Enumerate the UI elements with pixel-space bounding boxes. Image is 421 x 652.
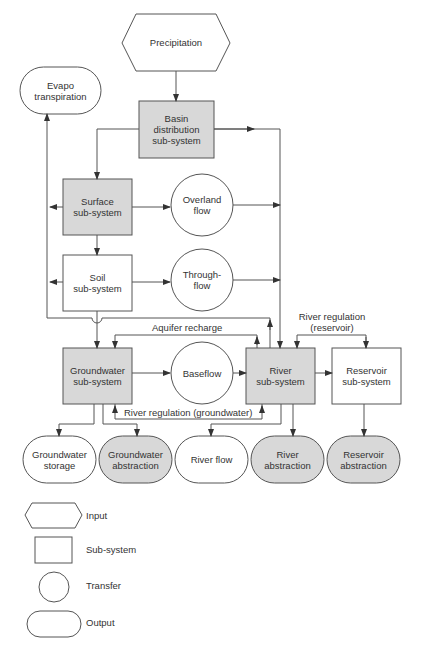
legend-subsystem-label: Sub-system bbox=[86, 544, 136, 555]
legend-output-oval bbox=[27, 611, 81, 637]
legend-input-label: Input bbox=[86, 510, 107, 521]
reservoir-label: Reservoir sub-system bbox=[332, 348, 401, 404]
legend-transfer-circle bbox=[39, 572, 69, 602]
precipitation-label: Precipitation bbox=[122, 14, 230, 71]
baseflow-label: Baseflow bbox=[171, 342, 233, 404]
throughflow-label: Through- flow bbox=[171, 249, 233, 311]
river-regulation-reservoir-label: River regulation (reservoir) bbox=[297, 311, 367, 333]
overland-label: Overland flow bbox=[171, 174, 233, 236]
legend-output-label: Output bbox=[86, 617, 115, 628]
river-flow-label: River flow bbox=[175, 436, 248, 483]
gw-storage-label: Groundwater storage bbox=[23, 436, 96, 483]
aquifer-recharge-label: Aquifer recharge bbox=[152, 322, 222, 333]
edge-river-reg-reservoir bbox=[297, 335, 366, 348]
surface-label: Surface sub-system bbox=[63, 179, 132, 235]
gw-abstraction-label: Groundwater abstraction bbox=[99, 436, 172, 483]
legend-transfer-label: Transfer bbox=[86, 580, 121, 591]
river-regulation-groundwater-label: River regulation (groundwater) bbox=[124, 407, 252, 418]
legend-subsystem-box bbox=[35, 537, 72, 563]
basin-label: Basin distribution sub-system bbox=[139, 101, 214, 158]
legend-input-hexagon bbox=[25, 503, 82, 528]
river-abstraction-label: River abstraction bbox=[251, 436, 324, 483]
edge-basin-surface bbox=[97, 129, 139, 179]
evapotranspiration-label: Evapo transpiration bbox=[20, 67, 101, 114]
groundwater-label: Groundwater sub-system bbox=[63, 348, 132, 404]
edge-basin-river bbox=[214, 129, 280, 348]
river-label: River sub-system bbox=[246, 348, 315, 404]
reservoir-abstraction-label: Reservoir abstraction bbox=[327, 436, 400, 483]
soil-label: Soil sub-system bbox=[63, 255, 132, 311]
